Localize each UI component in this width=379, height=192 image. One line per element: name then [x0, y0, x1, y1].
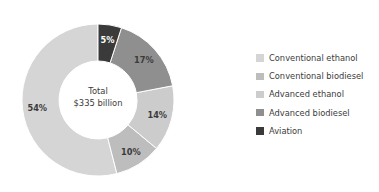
legend-swatch-icon [256, 109, 264, 117]
donut-slice-label: 5% [101, 35, 115, 45]
legend-swatch-icon [256, 73, 264, 81]
legend-item[interactable]: Advanced biodiesel [256, 104, 378, 122]
legend-item-label: Advanced ethanol [269, 90, 344, 98]
donut-slice-label: 10% [121, 147, 141, 157]
chart-legend: Conventional ethanolConventional biodies… [256, 49, 378, 140]
donut-center-line-1: Total [87, 86, 108, 96]
donut-slice-label: 14% [147, 110, 167, 120]
legend-swatch-icon [256, 127, 264, 135]
donut-slice-label: 54% [27, 103, 47, 113]
legend-swatch-icon [256, 54, 264, 62]
legend-item-label: Conventional biodiesel [269, 72, 363, 80]
legend-item[interactable]: Conventional ethanol [256, 49, 378, 67]
donut-slice-label: 17% [134, 55, 154, 65]
legend-item[interactable]: Conventional biodiesel [256, 67, 378, 85]
legend-item[interactable]: Aviation [256, 122, 378, 140]
legend-item-label: Advanced biodiesel [269, 109, 350, 117]
donut-chart: 54%10%14%17%5% Total $335 billion [18, 6, 178, 186]
donut-center-line-2: $335 billion [73, 98, 122, 108]
chart-page: 54%10%14%17%5% Total $335 billion Conven… [0, 0, 379, 192]
donut-chart-svg: 54%10%14%17%5% Total $335 billion [18, 6, 178, 186]
legend-item-label: Aviation [269, 127, 302, 135]
legend-swatch-icon [256, 91, 264, 99]
legend-item[interactable]: Advanced ethanol [256, 85, 378, 103]
legend-item-label: Conventional ethanol [269, 54, 358, 62]
